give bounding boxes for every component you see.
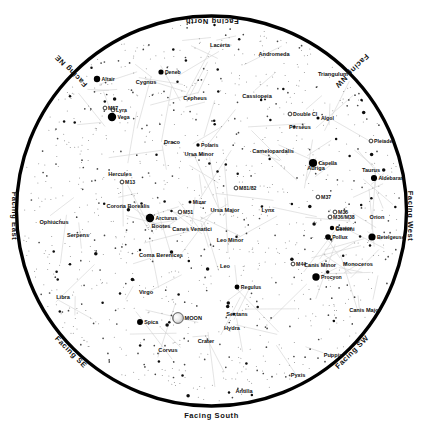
dso-label-m44: M44 [296,261,306,267]
constellation-label-cygnus: Cygnus [136,79,157,85]
constellation-label-canis-minor: Canis Minor [304,262,337,268]
constellation-label-hydra: Hydra [224,325,241,331]
constellation-label-monoceros: Monoceros [343,261,373,267]
constellation-label-canes-venatici: Canes Venatici [172,226,212,232]
constellation-label-hercules: Hercules [108,171,132,177]
cardinal-label-south: Facing South [184,411,239,420]
star-marker-altair [94,76,100,82]
dso-label-m51: M51 [183,209,193,215]
constellation-label-draco: Draco [164,139,180,145]
cardinal-label-west: Facing West [406,191,415,242]
constellation-label-pyxis: Pyxis [291,372,306,378]
constellation-label-coma-berenices: Coma Berenices [139,252,183,258]
constellation-label-antilia: Antilia [235,388,253,394]
constellation-label-camelopardalis: Camelopardalis [252,148,294,154]
constellation-label-leo: Leo [220,263,231,269]
dso-label-m81-82: M81/82 [239,185,256,191]
star-label-deneb: Deneb [165,69,181,75]
constellation-label-libra: Libra [56,294,71,300]
star-label-betelgeuse: Betelgeuse [377,234,405,240]
star-marker-mizar [189,201,192,204]
star-label-vega: Vega [118,114,130,120]
star-marker-arcturus [146,214,154,222]
star-marker-spica [137,319,143,325]
constellation-label-canis-major: Canis Major [349,307,382,313]
constellation-label-ophiuchus: Ophiuchus [39,219,68,225]
constellation-label-cepheus: Cepheus [183,95,207,101]
constellation-label-ursa-major: Ursa Major [211,207,241,213]
constellation-label-ursa-minor: Ursa Minor [184,151,214,157]
star-label-altair: Altair [102,76,115,82]
constellation-label-lacerta: Lacerta [210,42,231,48]
moon-disc-icon [173,313,184,324]
constellation-label-crater: Crater [198,338,215,344]
star-marker-betelgeuse [368,233,375,240]
dso-label-pleiades: Pleiades [374,138,395,144]
star-label-capella: Capella [318,160,337,166]
star-label-polaris: Polaris [201,142,218,148]
constellation-label-perseus: Perseus [289,124,311,130]
cardinal-label-north: Facing North [185,17,238,26]
star-marker-procyon [312,273,319,280]
star-label-algol: Algol [321,115,335,121]
star-marker-regulus [235,285,240,290]
constellation-label-bootes: Bootes [152,223,171,229]
star-label-regulus: Regulus [241,284,262,290]
constellation-label-virgo: Virgo [139,289,154,295]
constellation-label-cassiopeia: Cassiopeia [242,93,272,99]
star-marker-castor [330,226,334,230]
star-label-arcturus: Arcturus [156,215,178,221]
moon-label: MOON [185,315,202,321]
star-marker-vega [108,113,116,121]
star-label-aldebaran: Aldebaran [378,175,403,181]
star-marker-pollux [325,234,331,240]
star-label-castor: Castor [336,225,352,231]
star-marker-aldebaran [371,175,377,181]
star-label-spica: Spica [144,319,158,325]
dso-label-double-cl: Double Cl [293,111,318,117]
star-marker-polaris [196,143,199,146]
dso-label-m37: M37 [321,194,331,200]
constellation-label-corvus: Corvus [158,347,177,353]
cardinal-label-east: Facing East [10,192,19,241]
star-chart: LacertaAndromedaTriangulumCygnusCassiope… [0,0,423,426]
star-label-pollux: Pollux [332,234,348,240]
star-label-procyon: Procyon [321,274,342,280]
constellation-label-andromeda: Andromeda [258,51,290,57]
constellation-label-orion: Orion [370,214,385,220]
constellation-label-sextans: Sextans [226,311,247,317]
constellation-label-lynx: Lynx [262,207,276,213]
dso-label-m13: M13 [125,179,135,185]
star-label-mizar: Mizar [193,199,206,205]
constellation-label-serpens: Serpens [67,232,89,238]
star-marker-deneb [158,69,163,74]
dso-label-m36-m38: M36/M38 [333,214,355,220]
constellation-label-taurus: Taurus [362,167,380,173]
dso-label-lyra: Lyra [116,107,127,113]
constellation-label-corona-borealis: Corona Borealis [106,203,149,209]
constellation-label-leo-minor: Leo Minor [217,237,245,243]
moon-marker [173,313,184,324]
